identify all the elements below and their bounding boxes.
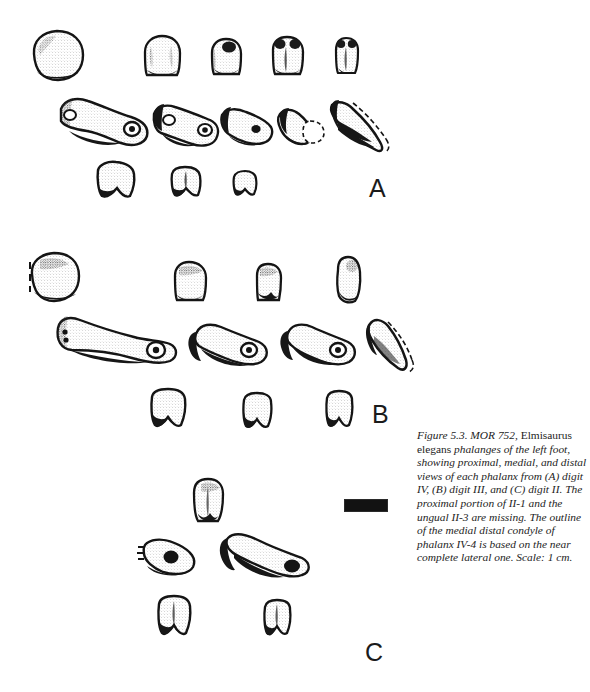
panel-b-distal-3 [320, 388, 358, 432]
panel-a-medial-3 [215, 103, 275, 151]
panel-a-proximal-4 [265, 33, 309, 79]
panel-a-digit-iv: A [0, 0, 420, 215]
panel-c-distal-1 [152, 593, 196, 641]
panel-a-distal-1 [90, 158, 142, 202]
panel-b-medial-2 [183, 318, 275, 372]
reconstructed-claw-tip [384, 139, 389, 152]
panel-a-medial-4 [272, 103, 328, 151]
panel-b-distal-2 [237, 390, 277, 432]
panel-a-medial-2 [148, 100, 220, 152]
panel-b-proximal-2 [167, 258, 213, 304]
panel-a-distal-3 [229, 169, 261, 199]
panel-c-distal-2 [258, 597, 296, 639]
caption-part-lead: Figure 5.3. MOR 752, [417, 429, 521, 441]
panel-a-medial-ungual [322, 95, 400, 161]
panel-b-proximal-4 [328, 254, 366, 306]
scale-bar [344, 499, 388, 512]
reconstructed-claw-tip [407, 360, 413, 372]
panel-a-medial-1 [55, 93, 153, 151]
panel-b-distal-1 [145, 386, 191, 432]
panel-b-medial-1 [52, 312, 182, 368]
panel-letter-b: B [372, 402, 389, 427]
panel-b-proximal-3 [248, 260, 288, 304]
panel-letter-a: A [369, 176, 386, 201]
figure-plate: A [0, 0, 590, 692]
panel-a-proximal-1 [28, 28, 88, 84]
panel-c-medial-2 [212, 528, 320, 584]
panel-b-medial-3 [275, 318, 363, 372]
panel-a-distal-2 [166, 164, 206, 200]
panel-a-proximal-2 [138, 32, 186, 80]
panel-b-medial-ungual [358, 312, 420, 382]
caption-part-body: phalanges of the left foot, showing prox… [417, 443, 586, 564]
figure-caption: Figure 5.3. MOR 752, Elmisaurus elegans … [417, 429, 587, 565]
panel-a-proximal-5 [328, 34, 364, 78]
panel-letter-c: C [365, 640, 384, 665]
panel-a-proximal-3 [205, 35, 247, 79]
panel-c-medial-1 [135, 533, 207, 581]
panel-c-digit-ii: C [0, 465, 420, 680]
panel-b-proximal-1 [26, 250, 84, 306]
panel-b-digit-iii: B [0, 240, 420, 440]
panel-c-proximal-1 [186, 475, 230, 527]
reconstructed-condyle-outline [303, 121, 324, 143]
